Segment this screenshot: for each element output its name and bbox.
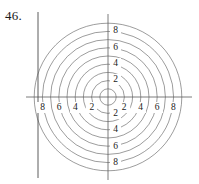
tick-label-bottom-8: 8 (113, 157, 118, 167)
tick-label-right-6: 6 (155, 102, 160, 112)
tick-label-top-6: 6 (113, 42, 118, 52)
polar-grid-chart: 8 6 4 2 2 4 6 8 8 6 4 2 (0, 0, 199, 184)
tick-label-bottom-6: 6 (113, 141, 118, 151)
worksheet-figure: 46. 8 6 4 2 2 (0, 0, 199, 184)
tick-label-top-8: 8 (113, 25, 118, 35)
tick-label-right-4: 4 (138, 102, 143, 112)
y-axis-tick-labels-top: 8 6 4 2 (110, 25, 121, 85)
x-axis-tick-labels-left: 8 6 4 2 (37, 102, 97, 113)
tick-label-left-6: 6 (57, 102, 62, 112)
tick-label-top-4: 4 (113, 58, 118, 68)
tick-label-bottom-4: 4 (113, 124, 118, 134)
tick-label-left-2: 2 (89, 102, 94, 112)
tick-label-right-2: 2 (122, 102, 127, 112)
x-axis-tick-labels-right: 2 4 6 8 (119, 102, 179, 113)
tick-label-bottom-2: 2 (113, 108, 118, 118)
tick-label-right-8: 8 (171, 102, 176, 112)
tick-label-left-4: 4 (73, 102, 78, 112)
tick-label-top-2: 2 (113, 74, 118, 84)
tick-label-left-8: 8 (40, 102, 45, 112)
